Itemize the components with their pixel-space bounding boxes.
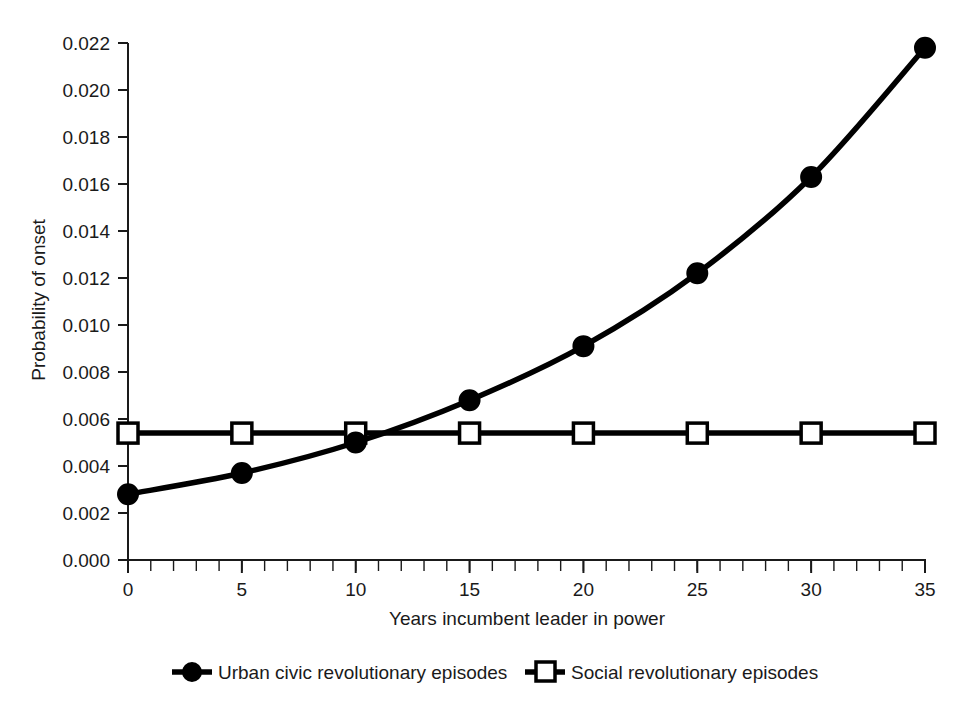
x-tick-label: 35 xyxy=(914,579,935,600)
y-tick-label: 0.022 xyxy=(62,33,110,54)
x-tick-label: 15 xyxy=(459,579,480,600)
y-tick-label: 0.016 xyxy=(62,174,110,195)
y-tick-label: 0.000 xyxy=(62,550,110,571)
data-point-marker-square xyxy=(915,423,935,443)
x-axis-ticks xyxy=(128,560,925,573)
legend-label-social: Social revolutionary episodes xyxy=(571,662,818,683)
data-point-marker-square xyxy=(460,423,480,443)
data-point-marker-circle xyxy=(687,263,707,283)
y-tick-label: 0.002 xyxy=(62,503,110,524)
data-point-marker-circle xyxy=(346,433,366,453)
x-tick-label: 0 xyxy=(123,579,134,600)
legend-item-urban-civic: Urban civic revolutionary episodes xyxy=(172,662,507,683)
x-tick-label: 20 xyxy=(573,579,594,600)
y-tick-label: 0.010 xyxy=(62,315,110,336)
data-point-marker-circle xyxy=(573,336,593,356)
chart-figure: 0.0000.0020.0040.0060.0080.0100.0120.014… xyxy=(0,0,959,711)
y-tick-label: 0.004 xyxy=(62,456,110,477)
chart-legend: Urban civic revolutionary episodes Socia… xyxy=(172,662,818,683)
data-point-marker-circle xyxy=(460,390,480,410)
data-point-marker-circle xyxy=(118,484,138,504)
data-point-marker-circle xyxy=(801,167,821,187)
data-point-marker-square xyxy=(687,423,707,443)
y-tick-label: 0.006 xyxy=(62,409,110,430)
x-tick-label: 25 xyxy=(687,579,708,600)
y-axis-title: Probability of onset xyxy=(28,218,49,380)
data-point-marker-square xyxy=(573,423,593,443)
y-tick-label: 0.020 xyxy=(62,80,110,101)
line-chart: 0.0000.0020.0040.0060.0080.0100.0120.014… xyxy=(0,0,959,711)
data-point-marker-square xyxy=(232,423,252,443)
x-axis-minor-ticks xyxy=(128,560,925,571)
legend-label-urban-civic: Urban civic revolutionary episodes xyxy=(218,662,507,683)
data-point-marker-circle xyxy=(915,38,935,58)
y-tick-label: 0.012 xyxy=(62,268,110,289)
x-axis-tick-labels: 05101520253035 xyxy=(123,579,936,600)
x-tick-label: 5 xyxy=(237,579,248,600)
x-axis-title: Years incumbent leader in power xyxy=(389,608,666,629)
x-tick-label: 10 xyxy=(345,579,366,600)
y-axis-ticks xyxy=(118,43,128,560)
legend-marker-filled-circle xyxy=(183,663,201,681)
y-axis-tick-labels: 0.0000.0020.0040.0060.0080.0100.0120.014… xyxy=(62,33,110,571)
legend-item-social: Social revolutionary episodes xyxy=(525,662,818,683)
legend-marker-open-square xyxy=(536,662,555,681)
data-point-marker-circle xyxy=(232,463,252,483)
x-tick-label: 30 xyxy=(801,579,822,600)
data-point-marker-square xyxy=(801,423,821,443)
y-tick-label: 0.008 xyxy=(62,362,110,383)
y-tick-label: 0.014 xyxy=(62,221,110,242)
data-point-marker-square xyxy=(118,423,138,443)
y-tick-label: 0.018 xyxy=(62,127,110,148)
